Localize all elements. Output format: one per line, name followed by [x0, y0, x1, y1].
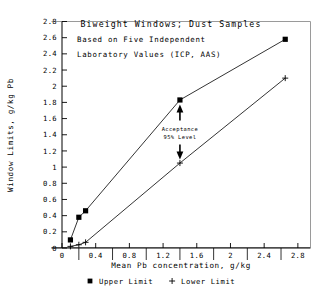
y-tick-label: 1.4	[43, 130, 57, 139]
legend-square-marker-icon	[88, 279, 93, 284]
x-tick-label: 0	[60, 251, 65, 260]
y-tick-label: 2.6	[43, 33, 57, 42]
x-tick-label: 2	[228, 251, 233, 260]
y-tick-label: 1.2	[43, 147, 57, 156]
annotation-text-line-2: 95% Level	[164, 134, 197, 140]
x-tick-label: 2.8	[291, 251, 305, 260]
data-point-marker	[68, 237, 73, 242]
x-tick-label: 1.6	[190, 251, 204, 260]
x-tick-label: 0.8	[122, 251, 136, 260]
x-axis-title: Mean Pb concentration, g/kg	[111, 261, 251, 270]
y-tick-label: 2.4	[43, 49, 57, 58]
chart-subtitle-line-2: Laboratory Values (ICP, AAS)	[77, 50, 221, 59]
y-tick-label: 1.8	[43, 98, 57, 107]
x-tick-label: 1.2	[156, 251, 170, 260]
chart-figure: 00.20.40.60.811.21.41.61.822.22.42.62.8 …	[0, 0, 323, 291]
y-tick-label: 0.2	[43, 227, 57, 236]
y-tick-label: 2.2	[43, 66, 57, 75]
y-tick-label: 2	[52, 82, 57, 91]
y-tick-label: 1.6	[43, 114, 57, 123]
chart-subtitle-line-1: Based on Five Independent	[77, 35, 206, 44]
legend-label: Lower Limit	[181, 277, 235, 286]
y-axis-title: Window Limits, g/kg Pb	[6, 78, 15, 192]
y-tick-label: 0.4	[43, 211, 57, 220]
data-point-marker	[283, 37, 288, 42]
data-point-marker	[177, 97, 182, 102]
y-axis-tick-labels: 00.20.40.60.811.21.41.61.822.22.42.62.8	[43, 17, 57, 253]
x-tick-label: 2.4	[257, 251, 271, 260]
legend-label: Upper Limit	[99, 277, 153, 286]
chart-title: Biweight Windows; Dust Samples	[81, 19, 262, 29]
x-tick-label: 0.4	[89, 251, 103, 260]
y-tick-label: 1	[52, 163, 57, 172]
y-tick-label: 0	[52, 244, 57, 253]
data-point-marker	[83, 208, 88, 213]
chart-canvas: 00.20.40.60.811.21.41.61.822.22.42.62.8 …	[0, 0, 323, 291]
data-point-marker	[76, 215, 81, 220]
y-tick-label: 0.8	[43, 179, 57, 188]
annotation-text-line-1: Acceptance	[162, 126, 198, 133]
y-tick-label: 2.8	[43, 17, 57, 26]
y-tick-label: 0.6	[43, 195, 57, 204]
